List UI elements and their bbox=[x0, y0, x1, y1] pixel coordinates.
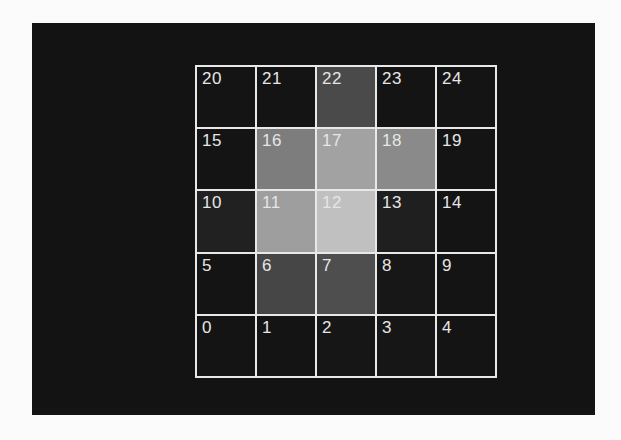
grid-cell-1: 1 bbox=[257, 316, 315, 376]
grid-cell-17: 17 bbox=[317, 129, 375, 189]
cell-label: 15 bbox=[202, 130, 222, 152]
cell-label: 7 bbox=[322, 255, 332, 277]
cell-label: 21 bbox=[262, 68, 282, 90]
grid-cell-6: 6 bbox=[257, 254, 315, 314]
cell-label: 16 bbox=[262, 130, 282, 152]
cell-label: 13 bbox=[382, 192, 402, 214]
cell-label: 19 bbox=[442, 130, 462, 152]
cell-label: 12 bbox=[322, 192, 342, 214]
cell-label: 2 bbox=[322, 317, 332, 339]
page-background: 2021222324151617181910111213145678901234 bbox=[0, 0, 621, 440]
grid-cell-22: 22 bbox=[317, 67, 375, 127]
grid-cell-19: 19 bbox=[437, 129, 495, 189]
grid-cell-13: 13 bbox=[377, 191, 435, 251]
grid-cell-14: 14 bbox=[437, 191, 495, 251]
grid-cell-16: 16 bbox=[257, 129, 315, 189]
cell-label: 10 bbox=[202, 192, 222, 214]
cell-label: 1 bbox=[262, 317, 272, 339]
grid-cell-3: 3 bbox=[377, 316, 435, 376]
cell-label: 0 bbox=[202, 317, 212, 339]
grid-cell-24: 24 bbox=[437, 67, 495, 127]
cell-label: 24 bbox=[442, 68, 462, 90]
cell-label: 14 bbox=[442, 192, 462, 214]
grid-cell-7: 7 bbox=[317, 254, 375, 314]
grid-cell-0: 0 bbox=[197, 316, 255, 376]
cell-label: 11 bbox=[262, 192, 281, 214]
grid-cell-9: 9 bbox=[437, 254, 495, 314]
grid-cell-21: 21 bbox=[257, 67, 315, 127]
cell-label: 5 bbox=[202, 255, 212, 277]
grid-cell-4: 4 bbox=[437, 316, 495, 376]
grid-cell-20: 20 bbox=[197, 67, 255, 127]
grid-cell-5: 5 bbox=[197, 254, 255, 314]
cell-label: 22 bbox=[322, 68, 342, 90]
grid-cell-8: 8 bbox=[377, 254, 435, 314]
grid-cell-11: 11 bbox=[257, 191, 315, 251]
cell-label: 17 bbox=[322, 130, 342, 152]
cell-label: 8 bbox=[382, 255, 392, 277]
grid-cell-23: 23 bbox=[377, 67, 435, 127]
cell-label: 18 bbox=[382, 130, 402, 152]
grid-cell-12: 12 bbox=[317, 191, 375, 251]
grid-cell-15: 15 bbox=[197, 129, 255, 189]
cell-label: 4 bbox=[442, 317, 452, 339]
cell-label: 23 bbox=[382, 68, 402, 90]
cell-label: 9 bbox=[442, 255, 452, 277]
grid-cell-2: 2 bbox=[317, 316, 375, 376]
cell-label: 20 bbox=[202, 68, 222, 90]
cell-label: 3 bbox=[382, 317, 392, 339]
heatmap-grid: 2021222324151617181910111213145678901234 bbox=[195, 65, 497, 378]
grid-cell-10: 10 bbox=[197, 191, 255, 251]
cell-label: 6 bbox=[262, 255, 272, 277]
figure-panel: 2021222324151617181910111213145678901234 bbox=[32, 23, 595, 415]
grid-cell-18: 18 bbox=[377, 129, 435, 189]
